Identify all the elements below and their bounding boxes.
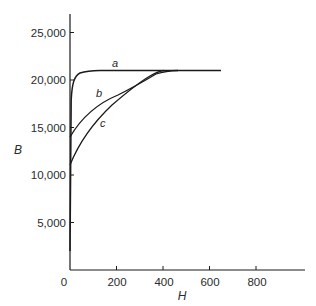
curve-a: [70, 71, 221, 252]
y-tick-label: 20,000: [31, 74, 66, 86]
y-tick-label: 15,000: [31, 122, 66, 134]
x-tick-label: 0: [61, 276, 67, 288]
curve-label-b: b: [96, 87, 102, 99]
y-tick-label: 5,000: [37, 217, 66, 229]
y-axis-label: B: [14, 143, 22, 157]
curve-b: [70, 71, 178, 138]
curve-label-a: a: [112, 57, 118, 69]
x-axis-label: H: [178, 289, 187, 303]
x-tick-label: 600: [200, 276, 219, 288]
bh-chart: 5,000 10,000 15,000 20,000 25,000 0 200 …: [0, 0, 316, 306]
y-tick-label: 10,000: [31, 169, 66, 181]
x-tick-label: 400: [154, 276, 173, 288]
x-tick-label: 800: [247, 276, 266, 288]
y-tick-label: 25,000: [31, 27, 66, 39]
x-tick-label: 200: [107, 276, 126, 288]
curve-label-c: c: [100, 117, 106, 129]
